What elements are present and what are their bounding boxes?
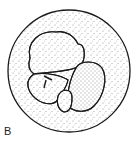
figure-label: B xyxy=(4,125,11,137)
zona-pellucida xyxy=(8,10,130,132)
embryo-drawing xyxy=(0,0,138,146)
embryo-illustration: B xyxy=(0,0,138,146)
